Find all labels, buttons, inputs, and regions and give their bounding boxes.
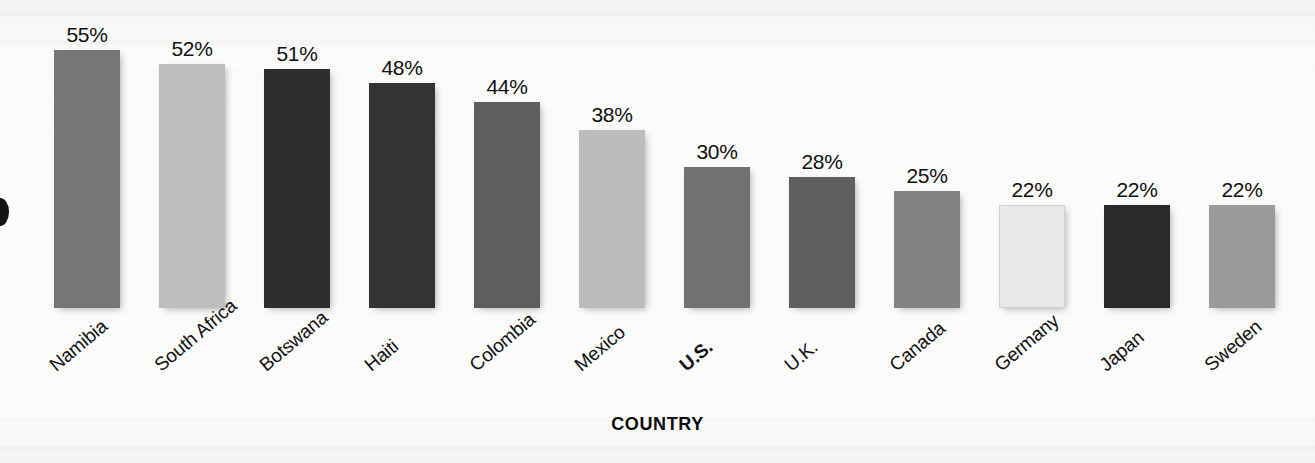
bar: [54, 50, 120, 308]
bar-value-label: 51%: [252, 43, 342, 64]
bar-value-label: 22%: [1197, 179, 1287, 200]
bar: [159, 64, 225, 308]
bar: [1104, 205, 1170, 308]
x-axis-tick-label: U.S.: [676, 337, 717, 376]
bar-value-label: 44%: [462, 76, 552, 97]
x-axis-tick-label: Colombia: [466, 309, 539, 375]
chart-page: 55%Namibia52%South Africa51%Botswana48%H…: [0, 0, 1315, 463]
bar-value-label: 22%: [987, 179, 1077, 200]
bar-value-label: 22%: [1092, 179, 1182, 200]
bar: [579, 130, 645, 308]
bar: [999, 205, 1065, 308]
bar-value-label: 55%: [42, 24, 132, 45]
x-axis-tick-label: Sweden: [1201, 317, 1266, 376]
bar-value-label: 52%: [147, 38, 237, 59]
bar-value-label: 28%: [777, 151, 867, 172]
bar-value-label: 38%: [567, 104, 657, 125]
x-axis-tick-label: Canada: [886, 318, 949, 375]
bar: [789, 177, 855, 308]
bar-chart-plot-area: 55%Namibia52%South Africa51%Botswana48%H…: [0, 0, 1315, 463]
bar: [894, 191, 960, 308]
bar-value-label: 30%: [672, 141, 762, 162]
x-axis-tick-label: Germany: [991, 311, 1063, 376]
bar: [1209, 205, 1275, 308]
bar-value-label: 25%: [882, 165, 972, 186]
x-axis-tick-label: Namibia: [46, 316, 111, 375]
bar-value-label: 48%: [357, 57, 447, 78]
x-axis-tick-label: Botswana: [256, 307, 332, 375]
x-axis-tick-label: Japan: [1096, 327, 1148, 375]
x-axis-title: COUNTRY: [0, 414, 1315, 435]
bar: [474, 102, 540, 308]
x-axis-tick-label: Mexico: [571, 322, 629, 375]
x-axis-tick-label: U.K.: [781, 337, 822, 376]
bar: [369, 83, 435, 308]
bar: [684, 167, 750, 308]
bar: [264, 69, 330, 308]
x-axis-tick-label: Haiti: [361, 336, 402, 375]
